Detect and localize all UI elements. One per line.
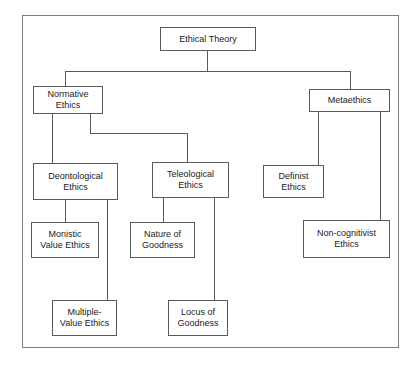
node-multiple-value-ethics[interactable]: Multiple- Value Ethics — [52, 300, 117, 336]
node-label-non-cognitivist-ethics: Non-cognitivist Ethics — [317, 228, 376, 250]
edge-ethical-theory-to-normative-ethics — [65, 51, 207, 86]
edge-ethical-theory-to-metaethics — [207, 51, 350, 89]
node-definist-ethics[interactable]: Definist Ethics — [263, 165, 324, 198]
node-locus-of-goodness[interactable]: Locus of Goodness — [168, 300, 228, 336]
node-label-multiple-value-ethics: Multiple- Value Ethics — [60, 307, 109, 329]
diagram-canvas: Ethical TheoryNormative EthicsMetaethics… — [0, 0, 420, 369]
node-nature-of-goodness[interactable]: Nature of Goodness — [130, 222, 195, 258]
node-monistic-value-ethics[interactable]: Monistic Value Ethics — [31, 222, 99, 258]
node-label-deontological-ethics: Deontological Ethics — [48, 171, 103, 193]
node-metaethics[interactable]: Metaethics — [309, 89, 390, 112]
node-ethical-theory[interactable]: Ethical Theory — [160, 27, 256, 51]
node-label-metaethics: Metaethics — [328, 95, 372, 106]
node-label-locus-of-goodness: Locus of Goodness — [177, 307, 218, 329]
node-label-normative-ethics: Normative Ethics — [47, 89, 88, 111]
node-teleological-ethics[interactable]: Teleological Ethics — [152, 162, 229, 198]
node-non-cognitivist-ethics[interactable]: Non-cognitivist Ethics — [303, 220, 390, 258]
edge-normative-ethics-to-teleological-ethics — [90, 114, 187, 162]
node-label-definist-ethics: Definist Ethics — [278, 171, 308, 193]
node-label-teleological-ethics: Teleological Ethics — [167, 169, 214, 191]
node-normative-ethics[interactable]: Normative Ethics — [33, 86, 103, 114]
node-label-ethical-theory: Ethical Theory — [179, 34, 236, 45]
node-deontological-ethics[interactable]: Deontological Ethics — [33, 163, 118, 200]
node-label-nature-of-goodness: Nature of Goodness — [142, 229, 183, 251]
node-label-monistic-value-ethics: Monistic Value Ethics — [40, 229, 89, 251]
